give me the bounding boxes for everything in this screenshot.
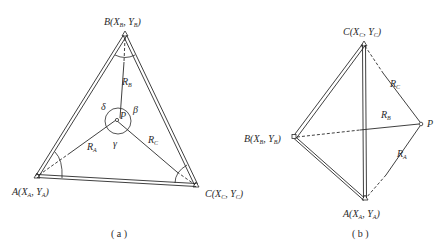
distance-label-rc: RC bbox=[389, 78, 401, 90]
point-p-marker bbox=[419, 122, 423, 126]
figure-a bbox=[34, 31, 199, 187]
vertex-label-b: B(XB, YB) bbox=[244, 133, 281, 145]
point-p-marker bbox=[115, 118, 118, 121]
line-pa bbox=[39, 120, 116, 175]
angle-label-beta: β bbox=[132, 104, 138, 115]
caption-a: ( a ) bbox=[111, 228, 127, 240]
vertex-label-a: A(XA, YA) bbox=[11, 186, 49, 198]
angle-label-delta: δ bbox=[101, 101, 106, 112]
side-ca bbox=[363, 45, 367, 198]
vertex-label-a: A(XA, YA) bbox=[342, 208, 380, 220]
vertex-label-c: C(XC, YC) bbox=[205, 188, 244, 200]
vertex-label-b: B(XB, YB) bbox=[104, 16, 141, 28]
line-pb bbox=[297, 124, 419, 137]
angle-arc-b bbox=[115, 55, 135, 58]
angle-arc-c bbox=[175, 165, 187, 183]
side-ba bbox=[294, 136, 364, 201]
vertex-marker-c bbox=[361, 41, 367, 46]
figure-b bbox=[292, 41, 423, 201]
caption-b: ( b ) bbox=[352, 228, 369, 240]
point-label-p: P bbox=[426, 118, 433, 129]
vertex-marker-b bbox=[122, 31, 128, 36]
angle-label-gamma: γ bbox=[113, 138, 118, 149]
distance-label-rb: RB bbox=[121, 76, 132, 88]
vertex-label-c: C(XC, YC) bbox=[343, 26, 382, 38]
side-cb bbox=[294, 44, 366, 138]
point-label-p: P bbox=[119, 110, 126, 121]
side-ab bbox=[36, 35, 127, 177]
diagram-canvas: B(XB, YB) A(XA, YA) C(XC, YC) RB RA RC P… bbox=[0, 0, 434, 252]
side-ac bbox=[37, 175, 196, 187]
labels-b: C(XC, YC) B(XB, YB) A(XA, YA) RC RB RA P… bbox=[244, 26, 433, 240]
distance-label-ra: RA bbox=[86, 141, 97, 153]
distance-label-ra: RA bbox=[396, 148, 407, 160]
labels-a: B(XB, YB) A(XA, YA) C(XC, YC) RB RA RC P… bbox=[11, 16, 244, 240]
distance-label-rb: RB bbox=[380, 109, 391, 121]
line-pa bbox=[366, 126, 420, 198]
vertex-marker-b bbox=[292, 135, 296, 139]
distance-label-rc: RC bbox=[147, 134, 159, 146]
vertex-marker-a bbox=[362, 195, 368, 200]
angle-arc-a bbox=[55, 152, 62, 178]
